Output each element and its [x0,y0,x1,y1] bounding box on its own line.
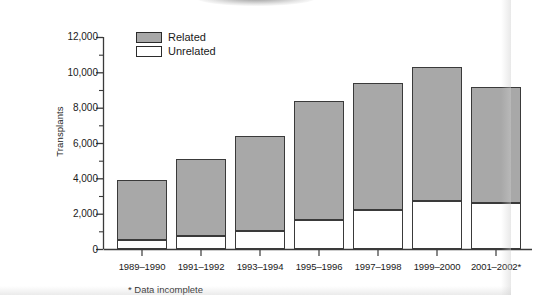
scan-smudge-artifact [196,0,316,6]
bar-stack-1997-1998 [353,83,403,249]
bar-segment-related [235,136,285,231]
bar-segment-related [294,101,344,220]
bar-segment-unrelated [412,201,462,249]
bar-stack-1991-1992 [176,159,226,249]
bar-segment-unrelated [235,231,285,249]
bar-segment-unrelated [294,220,344,249]
chart-footnote: * Data incomplete [128,284,203,295]
x-tick-label: 2001–2002* [456,261,536,272]
bar-stack-2001-2002 [471,87,521,249]
plot-area [40,16,536,295]
bar-segment-related [471,87,521,203]
bar-segment-related [412,67,462,201]
bar-stack-1993-1994 [235,136,285,249]
bar-segment-related [176,159,226,236]
bar-stack-1989-1990 [117,180,167,249]
bar-segment-related [117,180,167,240]
bar-segment-related [353,83,403,210]
bar-stack-1999-2000 [412,67,462,249]
bar-segment-unrelated [117,240,167,249]
bar-segment-unrelated [176,236,226,249]
bar-stack-1995-1996 [294,101,344,249]
bar-segment-unrelated [353,210,403,249]
bar-segment-unrelated [471,203,521,249]
transplants-stacked-bar-chart: Transplants 12,000 10,000 8,000 6,000 4,… [40,16,536,295]
